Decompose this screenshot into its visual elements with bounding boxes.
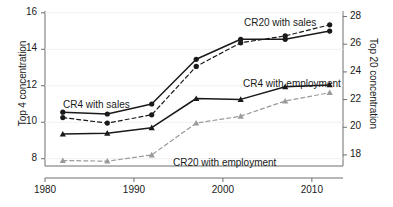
data-point: [194, 64, 199, 69]
y-axis-right-tick-label: 24: [350, 65, 372, 76]
y-axis-right-tick-label: 26: [350, 37, 372, 48]
y-axis-left-tick-label: 14: [15, 42, 37, 53]
y-axis-right-tick-label: 20: [350, 120, 372, 131]
data-point: [283, 33, 288, 38]
data-point: [105, 121, 110, 126]
data-point: [105, 111, 110, 116]
x-axis-tick-label: 1980: [25, 184, 65, 195]
series-label-cr20-with-sales: CR20 with sales: [244, 17, 316, 28]
data-point: [149, 112, 154, 117]
data-point: [327, 22, 332, 27]
y-axis-right-tick-label: 18: [350, 148, 372, 159]
series-label-cr4-with-employment: CR4 with employment: [243, 78, 341, 89]
dual-axis-line-chart: Top 4 concentration Top 20 concentration…: [0, 0, 393, 207]
x-axis-tick-label: 2000: [203, 184, 243, 195]
data-point: [193, 120, 199, 126]
data-point: [194, 57, 199, 62]
x-axis-tick-label: 2010: [292, 184, 332, 195]
data-point: [149, 101, 154, 106]
data-point: [238, 40, 243, 45]
series-label-cr20-with-employment: CR20 with employment: [173, 157, 276, 168]
series-label-cr4-with-sales: CR4 with sales: [63, 99, 130, 110]
data-point: [60, 115, 65, 120]
data-point: [327, 90, 333, 96]
y-axis-left-tick-label: 10: [15, 115, 37, 126]
y-axis-left-tick-label: 12: [15, 79, 37, 90]
y-axis-right-tick-label: 28: [350, 10, 372, 21]
plot-area: [0, 0, 393, 207]
data-point: [327, 29, 332, 34]
y-axis-left-tick-label: 8: [15, 152, 37, 163]
data-point: [60, 110, 65, 115]
x-axis-tick-label: 1990: [114, 184, 154, 195]
y-axis-right-tick-label: 22: [350, 93, 372, 104]
y-axis-left-tick-label: 16: [15, 6, 37, 17]
